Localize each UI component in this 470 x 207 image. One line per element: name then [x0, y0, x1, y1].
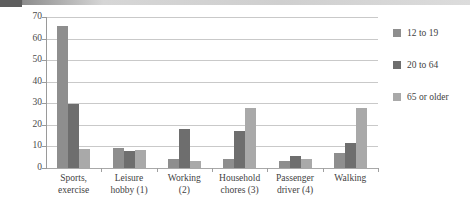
x-tick-mark	[378, 168, 379, 172]
legend-swatch-icon	[393, 29, 401, 37]
bar	[124, 151, 135, 168]
legend-swatch-icon	[393, 93, 401, 101]
legend-label: 12 to 19	[407, 28, 438, 38]
category-label-line: hobby (1)	[98, 185, 160, 197]
category-label-line: driver (4)	[264, 185, 326, 197]
bar	[113, 148, 124, 168]
category-label: Passengerdriver (4)	[264, 173, 326, 196]
category-label-line: (2)	[153, 185, 215, 197]
y-tick-label-70: 70	[6, 12, 42, 22]
category-label-line: chores (3)	[209, 185, 271, 197]
bar-group	[168, 17, 201, 168]
y-tick-label-40: 40	[6, 77, 42, 87]
y-tick-label-60: 60	[6, 34, 42, 44]
y-tick-label-0: 0	[6, 163, 42, 173]
bar	[301, 159, 312, 168]
x-tick-mark	[157, 168, 158, 172]
category-label: Working(2)	[153, 173, 215, 196]
category-label-line: Leisure	[98, 173, 160, 185]
bar-group	[223, 17, 256, 168]
bar-group	[334, 17, 367, 168]
x-tick-mark	[267, 168, 268, 172]
bars-layer	[46, 17, 378, 168]
category-label: Walking	[319, 173, 381, 185]
bar	[356, 108, 367, 168]
bar-group	[279, 17, 312, 168]
y-tick-label-10: 10	[6, 141, 42, 151]
bar	[135, 150, 146, 168]
bar	[168, 159, 179, 168]
bar	[223, 159, 234, 168]
y-tick-label-30: 30	[6, 98, 42, 108]
category-label-line: Sports,	[43, 173, 105, 185]
legend-swatch-icon	[393, 61, 401, 69]
category-label-line: Household	[209, 173, 271, 185]
bar	[334, 153, 345, 168]
x-tick-mark	[323, 168, 324, 172]
bar	[190, 161, 201, 168]
bar	[245, 108, 256, 168]
bar	[79, 149, 90, 168]
bar	[290, 156, 301, 168]
y-tick-mark-0	[42, 168, 47, 169]
y-tick-label-50: 50	[6, 55, 42, 65]
bar	[68, 104, 79, 168]
bar-group	[57, 17, 90, 168]
bar	[57, 26, 68, 168]
category-label: Sports,exercise	[43, 173, 105, 196]
category-label-line: Working	[153, 173, 215, 185]
category-label: Householdchores (3)	[209, 173, 271, 196]
x-tick-mark	[101, 168, 102, 172]
bar	[345, 143, 356, 168]
legend-label: 65 or older	[407, 92, 449, 102]
legend-label: 20 to 64	[407, 60, 438, 70]
category-label: Leisurehobby (1)	[98, 173, 160, 196]
category-label-line: Walking	[319, 173, 381, 185]
grouped-bar-chart: 010203040506070 Sports,exerciseLeisureho…	[0, 0, 470, 207]
y-tick-label-20: 20	[6, 120, 42, 130]
bar-group	[113, 17, 146, 168]
bar	[234, 131, 245, 168]
bar	[279, 161, 290, 168]
category-label-line: Passenger	[264, 173, 326, 185]
x-tick-mark	[212, 168, 213, 172]
category-label-line: exercise	[43, 185, 105, 197]
bar	[179, 129, 190, 168]
